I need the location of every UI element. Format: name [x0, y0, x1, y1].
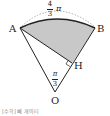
- shaded-region: [20, 19, 95, 63]
- point-label-H: H: [74, 61, 83, 71]
- angle-label: π 3: [52, 71, 58, 88]
- angle-denominator: 3: [53, 81, 57, 88]
- point-label-A: A: [9, 24, 16, 34]
- arc-pi-symbol: π: [56, 4, 61, 13]
- point-label-O: O: [51, 96, 59, 106]
- arc-numerator: 4: [48, 1, 52, 8]
- arc-denominator: 3: [48, 11, 52, 18]
- arc-length-label: 4 3: [47, 1, 53, 18]
- point-label-B: B: [97, 24, 104, 34]
- caption-text: [수학] 빼 개이티: [2, 107, 39, 114]
- angle-numerator: π: [53, 71, 58, 78]
